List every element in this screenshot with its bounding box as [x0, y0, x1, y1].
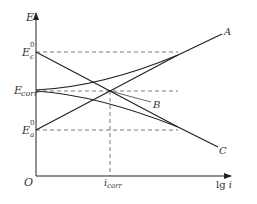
svg-text:E: E — [21, 46, 30, 59]
x-axis-label: lg i — [216, 179, 232, 190]
svg-text:a: a — [30, 131, 34, 139]
ecorr-label: E corr — [13, 84, 39, 98]
svg-text:E: E — [21, 124, 30, 137]
y-axis-label: E — [25, 11, 34, 24]
curve-label-c: C — [219, 145, 227, 156]
svg-text:0: 0 — [30, 119, 34, 127]
anodic-line — [36, 34, 222, 130]
svg-text:corr: corr — [107, 182, 122, 190]
cathodic-line — [36, 52, 218, 147]
anodic-polarization-curve — [36, 55, 178, 90]
curve-label-b: B — [152, 99, 160, 110]
svg-text:0: 0 — [30, 41, 34, 49]
ec0-label: E c 0 — [21, 41, 34, 61]
icorr-label: i corr — [104, 177, 122, 190]
b-leader-line — [110, 91, 151, 102]
evans-diagram: E lg i O E c 0 E corr E a 0 i corr A B C — [0, 0, 257, 204]
ea0-label: E a 0 — [21, 119, 34, 139]
svg-text:c: c — [30, 53, 34, 61]
svg-text:corr: corr — [21, 89, 39, 98]
origin-label: O — [24, 176, 33, 189]
curve-label-a: A — [223, 26, 231, 37]
